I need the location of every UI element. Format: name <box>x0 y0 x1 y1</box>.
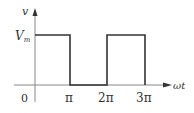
tick-label-2pi: 2π <box>98 91 114 105</box>
square-waveform <box>35 35 145 85</box>
y-axis-label: v <box>22 5 29 18</box>
square-wave-diagram: v Vm 0 π 2π 3π ωt <box>0 0 194 113</box>
tick-label-pi: π <box>65 91 73 105</box>
x-axis-arrow-icon <box>163 83 172 88</box>
tick-label-3pi: 3π <box>136 91 152 105</box>
x-axis-label: ωt <box>173 80 186 91</box>
tick-label-0: 0 <box>21 92 28 105</box>
y-axis-arrow-icon <box>33 8 38 16</box>
vm-label: Vm <box>15 29 31 44</box>
